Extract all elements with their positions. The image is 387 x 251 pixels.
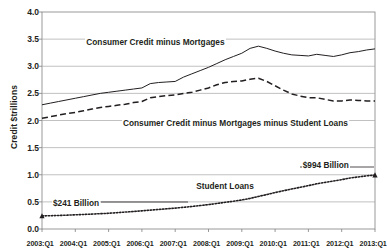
chart-annotation-label: $994 Billion [302,161,350,169]
chart-annotation-label: Student Loans [195,182,255,190]
series-line [42,78,375,118]
chart-figure: Credit $trillions 0.00.51.01.52.02.53.03… [0,0,387,251]
chart-annotation-label: Consumer Credit minus Mortgages minus St… [122,119,349,127]
chart-annotation-label: Consumer Credit minus Mortgages [85,38,225,46]
series-line [42,46,375,105]
chart-annotation-label: $241 Billion [52,199,100,207]
